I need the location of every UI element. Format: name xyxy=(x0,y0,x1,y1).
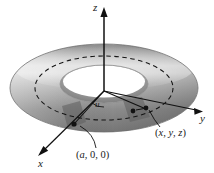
torus-diagram-svg xyxy=(0,0,214,173)
angle-u-label: u xyxy=(95,100,100,109)
point-xyz-close-paren: ) xyxy=(182,127,186,138)
torus-parametrization-figure: z y x u (a, 0, 0) (x, y, z) xyxy=(0,0,214,173)
point-xyz-inner-marker xyxy=(131,109,136,114)
z-axis-label: z xyxy=(93,2,97,13)
x-axis-label: x xyxy=(38,158,43,169)
point-a-marker xyxy=(71,121,76,126)
point-a-close-paren: ) xyxy=(106,149,110,160)
point-xyz-marker xyxy=(144,106,149,111)
point-a-label: (a, 0, 0) xyxy=(76,150,109,161)
point-xyz-label: (x, y, z) xyxy=(155,128,186,139)
z-axis-arrowhead xyxy=(100,7,107,17)
y-axis-label: y xyxy=(200,113,205,124)
